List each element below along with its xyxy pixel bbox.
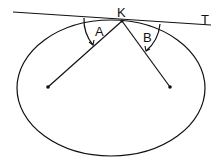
- label-k: K: [117, 5, 126, 20]
- ellipse: [17, 20, 205, 156]
- label-t: T: [201, 12, 209, 27]
- focus-right: [168, 85, 172, 89]
- label-a: A: [95, 24, 104, 39]
- tangent-line: [13, 12, 211, 25]
- ellipse-tangent-diagram: K T A B: [0, 0, 221, 166]
- focus-left: [46, 85, 50, 89]
- label-b: B: [143, 30, 152, 45]
